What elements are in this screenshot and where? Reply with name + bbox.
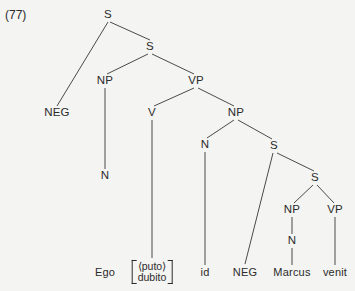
tree-terminal-term-ego: Ego <box>95 267 115 278</box>
tree-node-n-object: N <box>201 139 210 151</box>
tree-node-neg-upper: NEG <box>44 107 70 119</box>
bracket-line-two: dubito <box>138 272 167 283</box>
tree-node-np-subject: NP <box>97 75 113 87</box>
tree-node-vp-main: VP <box>188 75 204 87</box>
tree-terminal-term-id: id <box>201 267 210 278</box>
tree-node-s-embedded: S <box>270 140 278 152</box>
tree-terminal-term-venit: venit <box>323 267 347 278</box>
tree-node-n-inner: N <box>288 235 297 247</box>
bracket-alternation-stack: ⟨puto⟩dubito <box>137 260 168 284</box>
tree-node-s-root: S <box>104 9 112 21</box>
tree-node-np-object: NP <box>228 107 244 119</box>
tree-node-n-subject: N <box>101 170 110 182</box>
tree-node-v-main: V <box>148 107 156 119</box>
tree-node-labels: SSNPVPNEGVNPNNSSNPVPNEgoidNEGMarcusvenit… <box>0 0 355 291</box>
tree-node-vp-inner: VP <box>327 204 343 216</box>
tree-node-s-second: S <box>146 41 154 53</box>
tree-terminal-term-marcus: Marcus <box>273 267 310 278</box>
tree-terminal-term-neg: NEG <box>233 267 257 278</box>
right-bracket-icon <box>167 260 172 284</box>
tree-node-s-inner: S <box>311 172 319 184</box>
tree-node-np-inner: NP <box>284 204 300 216</box>
tree-terminal-term-puto-dubito: ⟨puto⟩dubito <box>132 260 173 284</box>
syntax-tree-figure: (77) SSNPVPNEGVNPNNSSNPVPNEgoidNEGMarcus… <box>0 0 355 291</box>
